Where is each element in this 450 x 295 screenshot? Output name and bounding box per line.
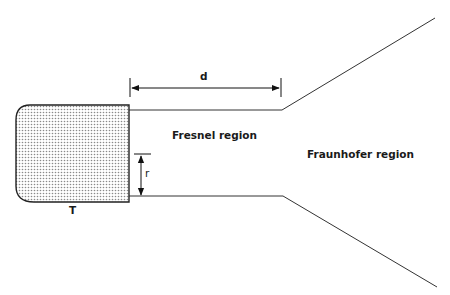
transducer-label: T <box>69 204 76 216</box>
distance-label: d <box>200 70 208 82</box>
transducer-block <box>16 105 129 202</box>
radius-label: r <box>145 167 149 179</box>
fraunhofer-region-label: Fraunhofer region <box>307 148 414 160</box>
fresnel-region-label: Fresnel region <box>172 129 257 141</box>
